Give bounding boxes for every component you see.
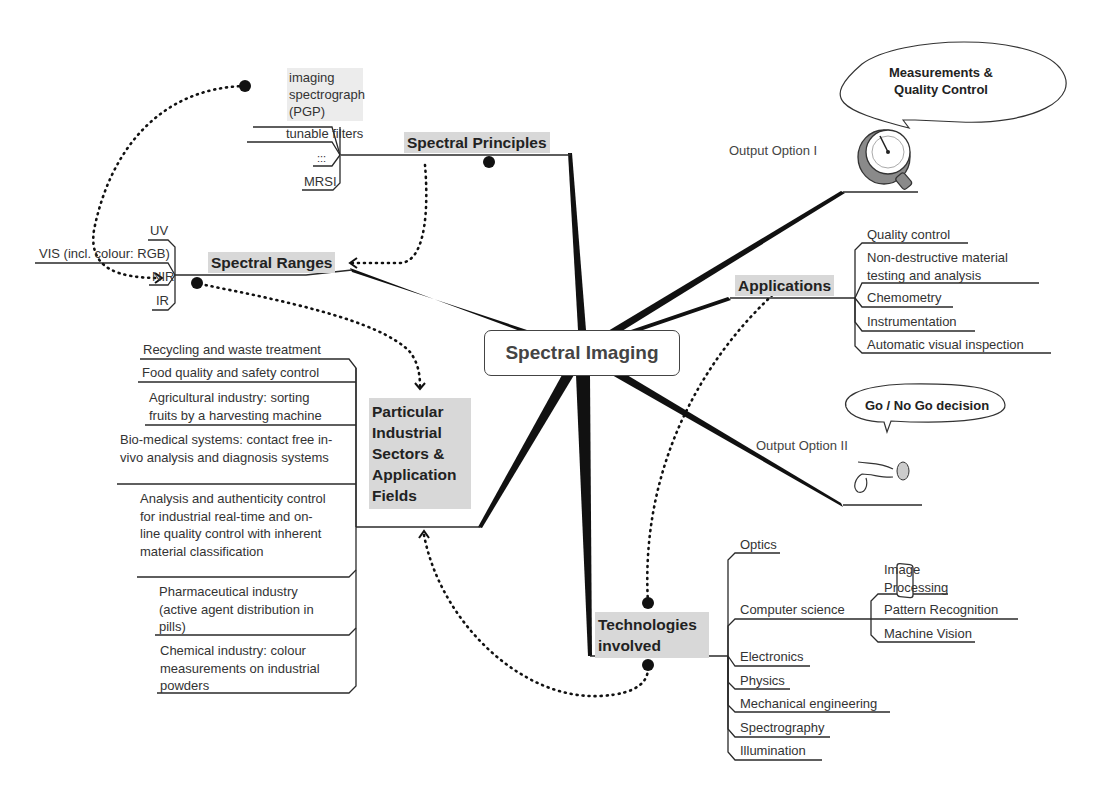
topic-spectral-principles[interactable]: Spectral Principles (404, 132, 550, 153)
cs-subitem[interactable]: Image Processing (884, 561, 964, 596)
topic-spectral-ranges[interactable]: Spectral Ranges (208, 252, 335, 273)
topic-applications[interactable]: Applications (735, 275, 834, 296)
topic-label: Technologies involved (598, 616, 697, 654)
technology-item[interactable]: Illumination (740, 743, 806, 759)
range-item[interactable]: VIS (incl. colour: RGB) (39, 246, 170, 262)
cs-subitem[interactable]: Pattern Recognition (884, 602, 998, 618)
sector-item[interactable]: Chemical industry: colour measurements o… (160, 642, 340, 695)
principle-item[interactable]: MRSI (304, 174, 337, 190)
topic-label: Applications (738, 277, 831, 294)
output-option-2-label: Output Option II (756, 438, 848, 454)
technology-item[interactable]: Electronics (740, 649, 804, 665)
central-node[interactable]: Spectral Imaging (484, 330, 680, 376)
topic-label: Spectral Principles (407, 134, 547, 151)
range-item[interactable]: IR (156, 293, 169, 309)
principle-item[interactable]: imaging spectrograph (PGP) (287, 68, 363, 121)
technology-item[interactable]: Mechanical engineering (740, 696, 877, 712)
sector-item[interactable]: Pharmaceutical industry (active agent di… (159, 583, 329, 636)
topic-sectors[interactable]: Particular Industrial Sectors & Applicat… (369, 398, 471, 509)
sector-item[interactable]: Bio-medical systems: contact free in-viv… (120, 431, 340, 466)
topic-label: Particular Industrial Sectors & Applicat… (372, 403, 456, 504)
central-node-label: Spectral Imaging (505, 342, 658, 364)
spoke-output-1 (608, 191, 845, 331)
application-item[interactable]: Non-destructive material testing and ana… (867, 249, 1037, 284)
output-option-1-bubble-text: Measurements & Quality Control (866, 64, 1016, 98)
output-option-2-bubble-text: Go / No Go decision (852, 397, 1002, 414)
cs-subitem[interactable]: Machine Vision (884, 626, 972, 642)
output-option-1-label: Output Option I (729, 143, 817, 159)
sector-item[interactable]: Recycling and waste treatment (143, 342, 321, 358)
technology-item[interactable]: Physics (740, 673, 785, 689)
spoke-sectors (478, 375, 574, 528)
gauge-icon (858, 130, 913, 190)
technology-item[interactable]: Spectrography (740, 720, 825, 736)
application-item[interactable]: Quality control (867, 227, 950, 243)
spoke-spectral-ranges (350, 268, 530, 331)
sector-item[interactable]: Agricultural industry: sorting fruits by… (149, 389, 339, 424)
relation-principles-ranges (352, 165, 426, 263)
spoke-spectral-principles (568, 153, 586, 330)
technology-item[interactable]: Computer science (740, 602, 845, 618)
range-item[interactable]: NIR (152, 269, 174, 285)
topic-label: Spectral Ranges (211, 254, 332, 271)
principle-item[interactable]: ::: (317, 150, 326, 166)
sector-item[interactable]: Analysis and authenticity control for in… (140, 490, 330, 560)
topic-technologies[interactable]: Technologies involved (595, 612, 709, 658)
range-item[interactable]: UV (150, 223, 168, 239)
principle-item[interactable]: tunable filters (286, 126, 363, 142)
sector-item[interactable]: Food quality and safety control (142, 365, 319, 381)
application-item[interactable]: Instrumentation (867, 314, 957, 330)
spoke-technologies (576, 375, 592, 656)
application-item[interactable]: Automatic visual inspection (867, 337, 1024, 353)
technology-item[interactable]: Optics (740, 537, 777, 553)
application-item[interactable]: Chemometry (867, 290, 941, 306)
